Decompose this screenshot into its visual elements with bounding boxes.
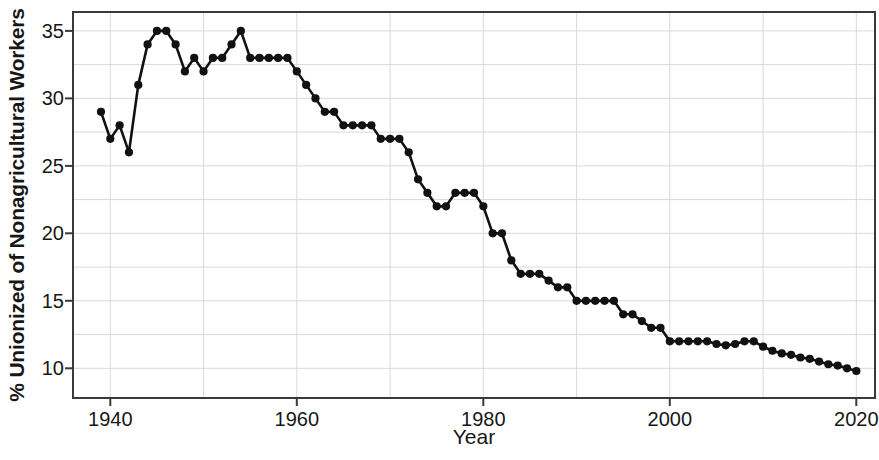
data-point — [638, 317, 646, 325]
data-point — [358, 121, 366, 129]
data-point — [274, 54, 282, 62]
data-point — [600, 297, 608, 305]
data-point — [545, 276, 553, 284]
data-point — [666, 337, 674, 345]
data-point — [293, 67, 301, 75]
data-point — [722, 341, 730, 349]
data-point — [237, 27, 245, 35]
data-point — [171, 40, 179, 48]
data-point — [489, 229, 497, 237]
data-point — [563, 283, 571, 291]
data-point — [703, 337, 711, 345]
data-point — [414, 175, 422, 183]
data-point — [199, 67, 207, 75]
data-point — [330, 108, 338, 116]
data-point — [694, 337, 702, 345]
data-point — [395, 135, 403, 143]
data-point — [712, 340, 720, 348]
data-point — [451, 189, 459, 197]
data-point — [740, 337, 748, 345]
data-point — [470, 189, 478, 197]
data-point — [526, 270, 534, 278]
data-point — [339, 121, 347, 129]
data-point — [675, 337, 683, 345]
data-point — [787, 351, 795, 359]
data-point — [97, 108, 105, 116]
data-point — [125, 148, 133, 156]
data-point — [582, 297, 590, 305]
data-point — [507, 256, 515, 264]
data-point — [843, 364, 851, 372]
data-point — [731, 340, 739, 348]
data-point — [824, 360, 832, 368]
data-point — [656, 324, 664, 332]
data-point — [144, 40, 152, 48]
data-point — [815, 357, 823, 365]
data-point — [349, 121, 357, 129]
data-point — [311, 94, 319, 102]
data-point — [684, 337, 692, 345]
data-point — [423, 189, 431, 197]
data-point — [283, 54, 291, 62]
data-point — [852, 367, 860, 375]
data-point — [591, 297, 599, 305]
axis-tick-marks — [65, 31, 856, 406]
data-point — [218, 54, 226, 62]
data-point — [433, 202, 441, 210]
data-point — [181, 67, 189, 75]
data-point — [386, 135, 394, 143]
data-point — [405, 148, 413, 156]
data-point — [265, 54, 273, 62]
data-point — [647, 324, 655, 332]
data-point — [190, 54, 198, 62]
data-point — [246, 54, 254, 62]
data-point — [255, 54, 263, 62]
data-point — [554, 283, 562, 291]
data-point — [227, 40, 235, 48]
data-point — [535, 270, 543, 278]
data-point — [796, 353, 804, 361]
data-point — [134, 81, 142, 89]
data-line — [101, 31, 856, 371]
data-point — [106, 135, 114, 143]
data-point — [367, 121, 375, 129]
data-point — [750, 337, 758, 345]
data-point — [759, 343, 767, 351]
data-point — [116, 121, 124, 129]
data-point — [572, 297, 580, 305]
data-point — [778, 349, 786, 357]
line-chart-plot — [0, 0, 879, 460]
data-point — [610, 297, 618, 305]
data-point — [517, 270, 525, 278]
data-point — [834, 362, 842, 370]
data-point — [498, 229, 506, 237]
data-point — [768, 347, 776, 355]
data-point — [321, 108, 329, 116]
chart-figure: % Unionized of Nonagricultural Workers Y… — [0, 0, 879, 460]
data-point — [806, 355, 814, 363]
data-point — [153, 27, 161, 35]
data-point — [209, 54, 217, 62]
data-point — [442, 202, 450, 210]
data-point — [377, 135, 385, 143]
data-point — [619, 310, 627, 318]
data-point — [628, 310, 636, 318]
data-point — [302, 81, 310, 89]
data-point — [461, 189, 469, 197]
data-point — [479, 202, 487, 210]
data-point — [162, 27, 170, 35]
